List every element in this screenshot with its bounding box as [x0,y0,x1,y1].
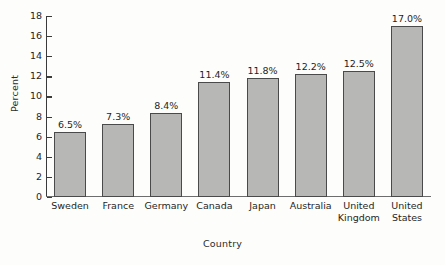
bar-slot: 6.5% [46,16,94,197]
y-tick-label: 16 [22,30,42,41]
x-axis-title: Country [0,238,445,249]
x-axis-category-label: UnitedStates [379,200,435,223]
bar-value-label: 17.0% [383,13,431,24]
bar-slot: 11.8% [239,16,287,197]
bar[interactable] [295,74,327,197]
y-tick-label: 2 [22,171,42,182]
bar-value-label: 11.8% [239,65,287,76]
y-tick-label: 6 [22,131,42,142]
bar[interactable] [150,113,182,197]
bar[interactable] [198,82,230,197]
bar-slot: 11.4% [190,16,238,197]
y-tick-mark [47,197,52,198]
bar[interactable] [54,132,86,197]
bar-value-label: 6.5% [46,119,94,130]
bar-value-label: 7.3% [94,111,142,122]
y-tick-label: 4 [22,151,42,162]
bar[interactable] [247,78,279,197]
bar[interactable] [102,124,134,197]
bar[interactable] [391,26,423,197]
y-axis-title: Percent [9,64,20,124]
plot-area: 024681012141618 6.5%7.3%8.4%11.4%11.8%12… [46,16,431,197]
caption-sliver [8,258,308,265]
bar-slot: 12.5% [335,16,383,197]
bar-slot: 17.0% [383,16,431,197]
bar-slot: 8.4% [142,16,190,197]
bar-value-label: 12.5% [335,58,383,69]
bar-value-label: 8.4% [142,100,190,111]
y-tick-label: 18 [22,10,42,21]
bar-slot: 12.2% [287,16,335,197]
y-tick-label: 8 [22,111,42,122]
bar-value-label: 11.4% [190,69,238,80]
y-tick-label: 0 [22,191,42,202]
x-axis-category-labels: SwedenFranceGermanyCanadaJapanAustraliaU… [46,200,431,234]
y-tick-label: 14 [22,50,42,61]
y-tick-label: 12 [22,70,42,81]
y-tick-label: 10 [22,90,42,101]
bars-layer: 6.5%7.3%8.4%11.4%11.8%12.2%12.5%17.0% [46,16,431,197]
bar-value-label: 12.2% [287,61,335,72]
bar-slot: 7.3% [94,16,142,197]
bar[interactable] [343,71,375,197]
bar-chart: Percent 024681012141618 6.5%7.3%8.4%11.4… [0,0,445,265]
